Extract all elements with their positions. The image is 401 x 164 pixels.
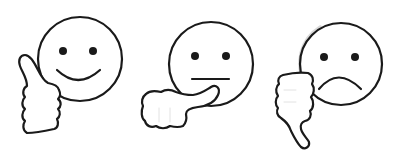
neutral-rating-icon[interactable] <box>142 22 253 128</box>
negative-rating-icon[interactable] <box>276 23 382 148</box>
positive-rating-icon[interactable] <box>19 17 122 133</box>
thumb-sideways-icon <box>142 86 219 128</box>
thumbs-down-icon <box>276 73 314 149</box>
feedback-icons-row: Happy face with thumbs up Neutral face w… <box>0 0 401 164</box>
